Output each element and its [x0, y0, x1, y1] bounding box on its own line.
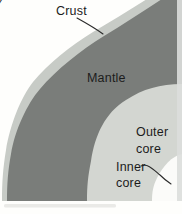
crust-label: Crust — [56, 3, 87, 20]
page-edge-strip — [177, 0, 182, 201]
earth-layers-figure: v Crust Mantle Outer core Inner core — [0, 0, 182, 214]
outer-core-label-line2: core — [136, 141, 168, 158]
outer-core-label-line1: Outer — [136, 124, 168, 141]
outer-core-label: Outer core — [136, 124, 168, 158]
inner-core-label-line1: Inner — [116, 159, 146, 175]
inner-core-label: Inner core — [116, 159, 146, 191]
inner-core-label-line2: core — [116, 175, 146, 191]
scan-smudge — [4, 204, 116, 208]
scan-artifact-area — [0, 201, 182, 214]
cropped-text-fragment: v — [0, 0, 2, 10]
mantle-label: Mantle — [87, 70, 126, 87]
crust-leader-line — [77, 18, 103, 34]
earth-layers-diagram — [0, 0, 182, 201]
